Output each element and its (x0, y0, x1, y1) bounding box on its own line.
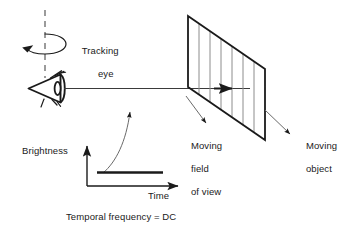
tracking-eye-label-line1: Tracking (82, 45, 119, 56)
moving-object-pointer-icon (265, 110, 290, 134)
figure-caption: Temporal frequency = DC (66, 211, 176, 223)
moving-field-of-view-label: Moving field of view (180, 128, 222, 209)
moving-field-line3: of view (191, 186, 221, 197)
moving-field-line1: Moving (191, 140, 222, 151)
tracking-eye-label: Tracking eye (71, 33, 119, 91)
rotation-arrow-icon (22, 34, 66, 54)
moving-field-line2: field (191, 163, 209, 174)
tracking-eye-label-line2: eye (82, 68, 130, 80)
moving-object-line2: object (306, 163, 332, 174)
striped-panel-icon (188, 16, 265, 140)
diagram-canvas (0, 0, 350, 231)
brightness-axis-label: Brightness (22, 145, 68, 157)
moving-object-label: Moving object (295, 128, 337, 186)
figure-root: Tracking eye Brightness Time Moving fiel… (0, 0, 350, 231)
field-of-view-pointer-icon (186, 96, 206, 123)
eye-icon (29, 71, 66, 107)
time-axis-label: Time (148, 190, 169, 202)
moving-object-line1: Moving (306, 140, 337, 151)
curved-pointer-icon (103, 112, 130, 173)
